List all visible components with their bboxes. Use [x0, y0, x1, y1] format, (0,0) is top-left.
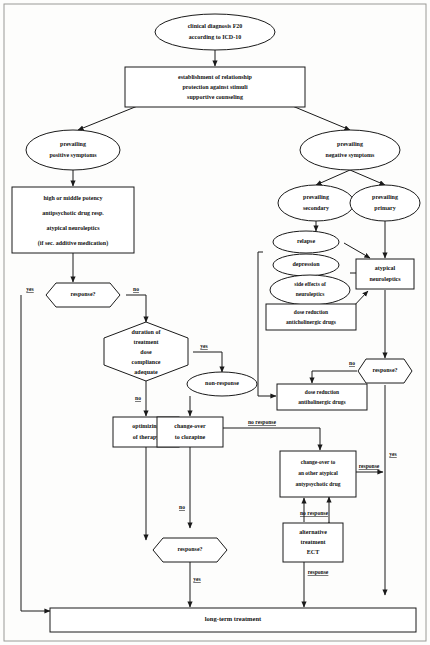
- node-dose-reduction-2-line-1: antiholinergic drugs: [298, 399, 346, 405]
- node-changeover-atypical-line-1: an other atypical: [298, 470, 338, 476]
- node-negative-symptoms-line-1: negative symptoms: [326, 152, 375, 158]
- node-non-response: non-response: [187, 372, 257, 396]
- node-establishment-line-0: establishment of relationship: [178, 74, 253, 80]
- node-high-potency: high or middle potency antipsychotic dru…: [12, 187, 134, 253]
- node-negative-symptoms-line-0: prevailing: [337, 141, 363, 147]
- edge-label-no-response-2: no: [349, 360, 355, 366]
- edge-label-no-1: no: [133, 286, 139, 292]
- node-start-line-0: clinical diagnosis F20: [188, 23, 243, 29]
- node-response-2: response?: [358, 359, 412, 383]
- node-high-potency-line-0: high or middle potency: [43, 195, 102, 201]
- node-duration-line-0: duration of: [132, 329, 162, 335]
- node-changeover-atypical-line-2: antypsychotic drug: [295, 481, 340, 487]
- flowchart-svg: clinical diagnosis F20 according to ICD-…: [0, 0, 430, 645]
- node-duration-line-3: compliance: [132, 359, 161, 365]
- node-high-potency-line-2: atypical neuroleptics: [46, 225, 100, 231]
- node-establishment: establishment of relationship protection…: [125, 67, 305, 107]
- node-establishment-line-1: protection against stimuli: [182, 84, 248, 90]
- edge-label-yes-right: yes: [389, 451, 397, 457]
- node-duration: duration of treatment dose compliance ad…: [104, 322, 188, 381]
- node-changeover-atypical: change-over to an other atypical antypsy…: [280, 451, 356, 497]
- node-clozapine-line-1: to clozapine: [175, 434, 206, 440]
- node-depression: depression: [273, 254, 339, 276]
- node-response-bottom: response?: [153, 538, 227, 562]
- edge-label-yes-bottom: yes: [193, 576, 201, 582]
- node-high-potency-line-3: (if sec. additive medication): [38, 240, 108, 247]
- node-prevailing-primary: prevailing primary: [350, 185, 420, 221]
- node-changeover-atypical-line-0: change-over to: [301, 459, 336, 465]
- node-positive-symptoms-line-0: prevailing: [60, 141, 86, 147]
- node-prevailing-secondary-line-1: secondary: [303, 205, 329, 211]
- node-positive-symptoms-line-1: positive symptoms: [49, 152, 97, 158]
- node-prevailing-primary-line-0: prevailing: [372, 194, 398, 200]
- node-dose-reduction-2-line-0: dose reduction: [305, 389, 339, 395]
- node-establishment-line-2: supportive counseling: [187, 94, 243, 100]
- node-dose-reduction-1: dose reduction anticholinergic drugs: [266, 304, 356, 330]
- edge-label-yes-duration: yes: [200, 343, 208, 349]
- node-dose-reduction-2: dose reduction antiholinergic drugs: [277, 384, 367, 410]
- node-atypical-neuroleptics-line-1: neuroleptics: [369, 276, 401, 282]
- node-response-1-label: response?: [70, 291, 95, 297]
- flowchart-canvas: clinical diagnosis F20 according to ICD-…: [0, 0, 430, 645]
- node-relapse-label: relapse: [297, 238, 316, 244]
- node-clozapine-line-0: change-over: [174, 423, 206, 429]
- node-atypical-neuroleptics: atypical neuroleptics: [356, 259, 414, 289]
- edge-label-response-ect: response: [308, 569, 329, 575]
- node-optimizing-line-0: optimizing: [132, 423, 159, 429]
- node-side-effects: side effects of neuroleptics: [270, 275, 350, 305]
- node-duration-line-4: adequate: [134, 369, 158, 375]
- node-response-1: response?: [46, 283, 120, 307]
- node-side-effects-line-1: neuroleptics: [296, 291, 325, 297]
- node-alternative-ect: alternative treatment ECT: [283, 523, 343, 562]
- node-start: clinical diagnosis F20 according to ICD-…: [155, 14, 275, 50]
- node-clozapine: change-over to clozapine: [157, 417, 223, 447]
- node-optimizing-line-1: of therapy: [133, 434, 160, 440]
- node-high-potency-line-1: antipsychotic drug resp.: [42, 210, 104, 216]
- node-alternative-ect-line-2: ECT: [307, 549, 319, 555]
- edge-label-no-response-changeover: no response: [300, 510, 329, 516]
- node-alternative-ect-line-0: alternative: [299, 529, 327, 535]
- edge-label-yes-1: yes: [26, 286, 34, 292]
- edge-label-no-clozapine: no response: [248, 419, 277, 425]
- node-prevailing-primary-line-1: primary: [374, 205, 395, 211]
- node-negative-symptoms: prevailing negative symptoms: [300, 130, 400, 170]
- edge-label-response-changeover: response: [359, 463, 380, 469]
- node-atypical-neuroleptics-line-0: atypical: [375, 265, 396, 271]
- node-long-term-treatment: long-term treatment: [50, 608, 416, 632]
- node-dose-reduction-1-line-1: anticholinergic drugs: [286, 319, 336, 325]
- edge-label-no-duration: no: [135, 395, 141, 401]
- node-relapse: relapse: [273, 231, 339, 253]
- node-prevailing-secondary: prevailing secondary: [278, 185, 354, 221]
- node-alternative-ect-line-1: treatment: [300, 539, 325, 545]
- node-long-term-treatment-label: long-term treatment: [205, 615, 262, 622]
- node-prevailing-secondary-line-0: prevailing: [303, 194, 329, 200]
- node-duration-line-2: dose: [140, 349, 152, 355]
- node-non-response-label: non-response: [205, 380, 239, 386]
- node-response-2-label: response?: [372, 367, 397, 373]
- node-dose-reduction-1-line-0: dose reduction: [294, 309, 328, 315]
- node-depression-label: depression: [292, 261, 320, 267]
- node-side-effects-line-0: side effects of: [294, 281, 326, 287]
- node-response-bottom-label: response?: [177, 546, 202, 552]
- edge-label-no-optimizing: no: [179, 504, 185, 510]
- node-duration-line-1: treatment: [133, 339, 158, 345]
- node-positive-symptoms: prevailing positive symptoms: [26, 130, 120, 170]
- node-start-line-1: according to ICD-10: [189, 34, 241, 40]
